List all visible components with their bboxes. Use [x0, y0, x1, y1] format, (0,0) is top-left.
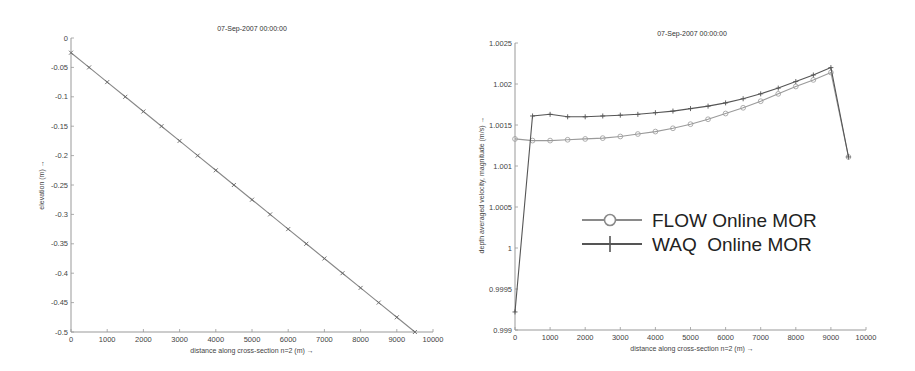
plus-marker-icon: [793, 79, 798, 84]
plus-marker-icon: [653, 110, 658, 115]
x-tick-label: 6000: [280, 335, 297, 344]
plus-marker-icon: [513, 309, 518, 314]
plus-marker-icon: [706, 104, 711, 109]
y-tick-label: 1.0005: [489, 203, 512, 212]
x-marker-icon: [196, 154, 200, 158]
y-tick-label: 0: [64, 34, 68, 43]
legend: FLOW Online MOR WAQ Online MOR: [582, 210, 817, 255]
x-marker-icon: [87, 65, 91, 69]
x-tick-label: 3000: [171, 335, 188, 344]
plus-marker-icon: [688, 106, 693, 111]
y-tick-label: -0.35: [51, 239, 68, 248]
plus-marker-icon: [776, 86, 781, 91]
x-marker-icon: [232, 183, 236, 187]
left-chart-title: 07-Sep-2007 00:00:00: [217, 25, 287, 33]
x-marker-icon: [322, 257, 326, 261]
x-tick-label: 2000: [135, 335, 152, 344]
x-marker-icon: [341, 271, 345, 275]
plus-marker-icon: [583, 114, 588, 119]
x-tick-label: 10000: [423, 335, 444, 344]
x-marker-icon: [160, 124, 164, 128]
y-tick-label: 1.0025: [489, 39, 512, 48]
right-chart-title: 07-Sep-2007 00:00:00: [657, 30, 727, 38]
x-marker-icon: [250, 198, 254, 202]
series-line: [515, 73, 849, 158]
legend-label-flow: FLOW Online MOR: [652, 210, 817, 231]
y-tick-label: -0.15: [51, 122, 68, 131]
x-marker-icon: [268, 212, 272, 216]
x-marker-icon: [304, 242, 308, 246]
plus-marker-icon: [811, 72, 816, 77]
x-marker-icon: [214, 168, 218, 172]
x-tick-label: 4000: [207, 335, 224, 344]
y-tick-label: -0.3: [55, 210, 68, 219]
y-tick-label: -0.1: [55, 92, 68, 101]
x-tick-label: 9000: [388, 335, 405, 344]
plus-marker-icon: [565, 114, 570, 119]
plus-marker-icon: [600, 113, 605, 118]
plus-marker-icon: [723, 100, 728, 105]
x-tick-label: 5000: [244, 335, 261, 344]
series-line: [71, 53, 415, 332]
left-plot-area: [69, 51, 417, 334]
x-tick-label: 7000: [752, 333, 769, 342]
elevation-chart: 07-Sep-2007 00:00:00 0100020003000400050…: [38, 25, 443, 355]
x-tick-label: 10000: [856, 333, 877, 342]
x-marker-icon: [377, 301, 381, 305]
left-x-axis-label: distance along cross-section n=2 (m) →: [190, 347, 314, 355]
right-plot-area: [513, 65, 851, 314]
x-marker-icon: [123, 95, 127, 99]
legend-item-waq: WAQ Online MOR: [582, 234, 812, 255]
x-tick-label: 6000: [717, 333, 734, 342]
x-marker-icon: [105, 80, 109, 84]
x-marker-icon: [359, 286, 363, 290]
plus-marker-icon: [635, 112, 640, 117]
right-x-axis-label: distance along cross-section n=2 (m) →: [630, 345, 754, 353]
circle-marker-icon: [605, 215, 616, 226]
y-tick-label: 0.999: [493, 326, 512, 335]
x-marker-icon: [286, 227, 290, 231]
velocity-chart: 07-Sep-2007 00:00:00 0100020003000400050…: [478, 30, 876, 353]
x-tick-label: 8000: [787, 333, 804, 342]
legend-item-flow: FLOW Online MOR: [582, 210, 817, 231]
y-tick-label: -0.45: [51, 298, 68, 307]
left-y-axis-label: elevation (m) →: [38, 160, 46, 209]
x-marker-icon: [395, 315, 399, 319]
y-tick-label: -0.05: [51, 63, 68, 72]
plus-marker-icon: [670, 109, 675, 114]
y-tick-label: 1: [508, 244, 512, 253]
x-marker-icon: [141, 110, 145, 114]
plus-marker-icon: [741, 96, 746, 101]
plus-marker-icon: [758, 91, 763, 96]
right-axes: 0100020003000400050006000700080009000100…: [489, 39, 876, 343]
legend-label-waq: WAQ Online MOR: [652, 234, 812, 255]
x-marker-icon: [178, 139, 182, 143]
left-axes: 0100020003000400050006000700080009000100…: [51, 34, 444, 345]
x-tick-label: 0: [513, 333, 517, 342]
x-tick-label: 2000: [577, 333, 594, 342]
plus-marker-icon: [828, 65, 833, 70]
y-tick-label: -0.4: [55, 269, 68, 278]
series-line: [515, 68, 849, 312]
y-tick-label: -0.5: [55, 328, 68, 337]
x-tick-label: 5000: [682, 333, 699, 342]
plus-marker-icon: [548, 112, 553, 117]
y-tick-label: -0.2: [55, 151, 68, 160]
y-tick-label: 1.0015: [489, 121, 512, 130]
y-tick-label: -0.25: [51, 181, 68, 190]
x-tick-label: 1000: [542, 333, 559, 342]
right-y-axis-label: depth averaged velocity, magnitude (m/s)…: [478, 117, 486, 254]
x-tick-label: 7000: [316, 335, 333, 344]
x-tick-label: 9000: [823, 333, 840, 342]
x-tick-label: 8000: [352, 335, 369, 344]
y-tick-label: 0.9995: [489, 285, 512, 294]
x-tick-label: 4000: [647, 333, 664, 342]
plus-marker-icon: [618, 113, 623, 118]
x-tick-label: 0: [69, 335, 73, 344]
x-tick-label: 1000: [99, 335, 116, 344]
y-tick-label: 1.002: [493, 80, 512, 89]
plus-marker-icon: [530, 113, 535, 118]
y-tick-label: 1.001: [493, 162, 512, 171]
x-tick-label: 3000: [612, 333, 629, 342]
figure-canvas: 07-Sep-2007 00:00:00 0100020003000400050…: [0, 0, 915, 371]
